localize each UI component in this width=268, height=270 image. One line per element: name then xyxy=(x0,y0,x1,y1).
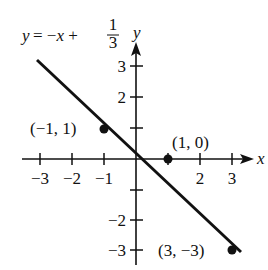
equation-title: y = −x + 1 3 xyxy=(20,15,119,52)
equation-frac-den: 3 xyxy=(109,33,118,52)
chart: −3 −2 −1 2 3 3 2 −2 −3 x y (−1, 1) (1, 0… xyxy=(0,0,268,270)
x-tick-label: −3 xyxy=(31,169,49,188)
x-axis-label: x xyxy=(256,149,265,168)
point-label: (3, −3) xyxy=(158,241,204,260)
equation-lhs: y xyxy=(20,26,30,45)
y-tick-label: 2 xyxy=(118,88,127,107)
x-tick-label: 2 xyxy=(196,169,205,188)
y-axis-label: y xyxy=(131,23,141,42)
y-tick-label: −2 xyxy=(108,211,126,230)
x-tick-label: −2 xyxy=(63,169,81,188)
line-series xyxy=(37,60,241,252)
point-label: (1, 0) xyxy=(172,133,209,152)
data-point xyxy=(164,155,173,164)
x-tick-label: 3 xyxy=(228,169,237,188)
y-tick-label: 3 xyxy=(118,57,127,76)
data-point xyxy=(100,125,109,134)
point-label: (−1, 1) xyxy=(30,119,76,138)
equation-frac-num: 1 xyxy=(109,15,118,34)
x-tick-label: −1 xyxy=(95,169,113,188)
equation-rhs: = −x + xyxy=(33,26,78,45)
y-tick-label: −3 xyxy=(108,241,126,260)
data-point xyxy=(228,246,237,255)
